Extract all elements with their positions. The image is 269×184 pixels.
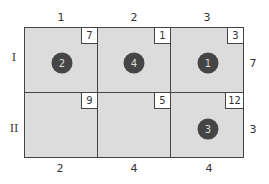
column-label-2: 2 — [131, 12, 138, 23]
demand-col-3: 4 — [206, 163, 213, 174]
supply-row-2: 3 — [250, 124, 257, 135]
cell-II-3: 12 3 — [171, 93, 243, 157]
cost-box: 1 — [154, 28, 170, 44]
allocation-circle: 1 — [198, 53, 219, 74]
cell-I-1: 7 2 — [25, 28, 97, 92]
cell-II-1: 9 — [25, 93, 97, 157]
cost-box: 12 — [225, 93, 243, 109]
allocation-circle: 4 — [124, 53, 145, 74]
demand-col-1: 2 — [57, 163, 64, 174]
cost-box: 9 — [81, 93, 97, 109]
row-label-2: II — [10, 123, 19, 134]
cell-I-2: 1 4 — [98, 28, 170, 92]
cell-I-3: 3 1 — [171, 28, 243, 92]
column-label-1: 1 — [58, 12, 65, 23]
column-label-3: 3 — [204, 12, 211, 23]
transportation-table: 7 2 1 4 3 1 9 5 12 3 — [24, 27, 244, 158]
allocation-circle: 3 — [198, 119, 219, 140]
row-label-1: I — [12, 52, 16, 63]
allocation-circle: 2 — [52, 53, 73, 74]
cost-box: 3 — [227, 28, 243, 44]
cell-II-2: 5 — [98, 93, 170, 157]
supply-row-1: 7 — [250, 58, 257, 69]
cost-box: 5 — [154, 93, 170, 109]
cost-box: 7 — [81, 28, 97, 44]
demand-col-2: 4 — [131, 163, 138, 174]
